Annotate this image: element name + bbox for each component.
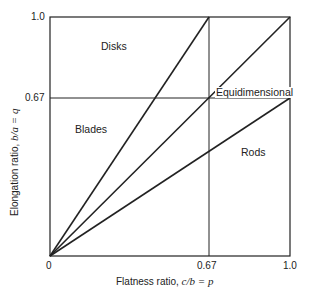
y-tick-0.67: 0.67 xyxy=(25,93,44,103)
y-axis-label: Elongation ratio, b/a = q xyxy=(8,108,20,216)
region-label-equidimensional: Equidimensional xyxy=(215,87,294,98)
region-label-rods: Rods xyxy=(241,147,266,158)
x-tick-0: 0 xyxy=(46,261,52,271)
diagonal-line-rods xyxy=(50,98,290,256)
diagonal-line-disks-blades xyxy=(50,17,209,256)
y-tick-1.0: 1.0 xyxy=(31,12,45,22)
x-tick-0.67: 0.67 xyxy=(197,261,216,271)
x-axis-label: Flatness ratio, c/b = p xyxy=(116,275,213,287)
region-label-blades: Blades xyxy=(75,124,107,135)
x-tick-1.0: 1.0 xyxy=(283,261,297,271)
diagonal-line-center xyxy=(50,17,290,256)
region-label-disks: Disks xyxy=(101,41,127,52)
